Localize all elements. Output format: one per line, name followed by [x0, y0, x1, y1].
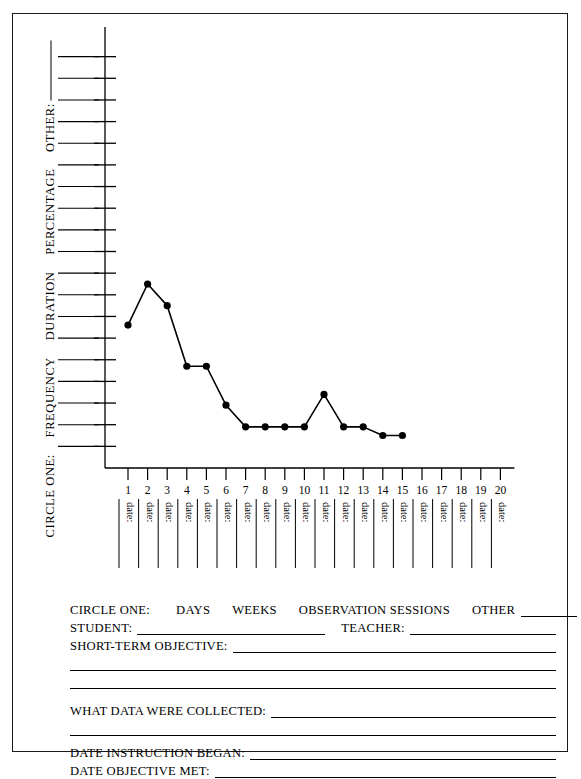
date-label: date:	[439, 502, 450, 522]
form-spacer-1	[70, 690, 556, 701]
date-objective-met-label: DATE OBJECTIVE MET:	[70, 765, 210, 778]
teacher-label: TEACHER:	[341, 622, 405, 635]
x-axis-tick-label: 12	[338, 484, 350, 496]
what-data-label: WHAT DATA WERE COLLECTED:	[70, 705, 266, 718]
data-point-marker[interactable]	[242, 423, 249, 430]
date-label: date:	[380, 502, 391, 522]
date-label: date:	[164, 502, 175, 522]
x-axis-tick-label: 13	[357, 484, 369, 496]
date-met-row: DATE OBJECTIVE MET:	[70, 761, 556, 778]
x-axis-tick-label: 9	[282, 484, 288, 496]
data-point-marker[interactable]	[379, 432, 386, 439]
data-point-marker[interactable]	[203, 363, 210, 370]
data-point-marker[interactable]	[164, 302, 171, 309]
x-axis-tick-label: 15	[397, 484, 409, 496]
x-axis-tick-label: 8	[262, 484, 268, 496]
date-label: date:	[203, 502, 214, 522]
x-axis-tick-label: 17	[436, 484, 448, 496]
date-label: date:	[262, 502, 273, 522]
short-term-objective-row: SHORT-TERM OBJECTIVE:	[70, 636, 556, 653]
teacher-field[interactable]	[410, 622, 556, 635]
date-label: date:	[125, 502, 136, 522]
what-data-row-2	[70, 719, 556, 736]
x-axis-tick-label: 6	[223, 484, 229, 496]
x-axis-tick-label: 2	[145, 484, 151, 496]
data-point-marker[interactable]	[183, 363, 190, 370]
x-axis-tick-label: 16	[416, 484, 428, 496]
x-axis-tick-label: 7	[243, 484, 249, 496]
short-term-objective-field[interactable]	[233, 640, 556, 653]
date-label: date:	[301, 502, 312, 522]
x-axis-tick-label: 19	[475, 484, 487, 496]
date-label: date:	[360, 502, 371, 522]
student-label: STUDENT:	[70, 622, 132, 635]
date-label: date:	[399, 502, 410, 522]
date-label: date:	[282, 502, 293, 522]
date-label: date:	[341, 502, 352, 522]
data-point-marker[interactable]	[360, 423, 367, 430]
what-data-field-line2[interactable]	[70, 720, 556, 736]
form-block: CIRCLE ONE: DAYS WEEKS OBSERVATION SESSI…	[70, 600, 556, 779]
circle-one-row: CIRCLE ONE: DAYS WEEKS OBSERVATION SESSI…	[70, 600, 556, 617]
date-label: date:	[419, 502, 430, 522]
circle-one-label: CIRCLE ONE:	[70, 604, 150, 617]
date-label: date:	[497, 502, 508, 522]
date-label: date:	[321, 502, 332, 522]
date-label: date:	[243, 502, 254, 522]
short-term-objective-row-3	[70, 672, 556, 689]
data-point-marker[interactable]	[320, 391, 327, 398]
what-data-field[interactable]	[271, 705, 556, 718]
x-axis-tick-label: 20	[495, 484, 507, 496]
date-label: date:	[145, 502, 156, 522]
short-term-objective-field-line3[interactable]	[70, 673, 556, 689]
option-other-fill[interactable]	[521, 604, 577, 617]
x-axis-tick-label: 1	[125, 484, 131, 496]
x-axis-tick-label: 18	[455, 484, 467, 496]
x-axis-tick-label: 14	[377, 484, 389, 496]
x-axis-tick-label: 10	[299, 484, 311, 496]
short-term-objective-row-2	[70, 654, 556, 671]
data-point-marker[interactable]	[262, 423, 269, 430]
data-point-marker[interactable]	[301, 423, 308, 430]
x-axis-tick-label: 11	[318, 484, 329, 496]
student-field[interactable]	[137, 622, 325, 635]
student-teacher-row: STUDENT: TEACHER:	[70, 618, 556, 635]
x-axis-tick-label: 5	[204, 484, 210, 496]
date-instruction-began-label: DATE INSTRUCTION BEGAN:	[70, 747, 245, 760]
date-objective-met-field[interactable]	[215, 765, 556, 778]
date-label: date:	[223, 502, 234, 522]
short-term-objective-field-line2[interactable]	[70, 655, 556, 671]
date-label: date:	[184, 502, 195, 522]
x-axis-tick-label: 3	[164, 484, 170, 496]
data-point-marker[interactable]	[222, 402, 229, 409]
date-label: date:	[458, 502, 469, 522]
date-instruction-began-field[interactable]	[250, 747, 556, 760]
option-weeks[interactable]: WEEKS	[232, 604, 277, 617]
x-axis-tick-label: 4	[184, 484, 190, 496]
data-point-marker[interactable]	[399, 432, 406, 439]
data-point-marker[interactable]	[340, 423, 347, 430]
option-observation-sessions[interactable]: OBSERVATION SESSIONS	[299, 604, 450, 617]
option-days[interactable]: DAYS	[176, 604, 210, 617]
date-began-row: DATE INSTRUCTION BEGAN:	[70, 743, 556, 760]
short-term-objective-label: SHORT-TERM OBJECTIVE:	[70, 640, 228, 653]
option-other[interactable]: OTHER	[472, 604, 515, 617]
data-point-marker[interactable]	[144, 280, 151, 287]
data-point-marker[interactable]	[281, 423, 288, 430]
what-data-row: WHAT DATA WERE COLLECTED:	[70, 701, 556, 718]
date-label: date:	[478, 502, 489, 522]
data-point-marker[interactable]	[124, 322, 131, 329]
